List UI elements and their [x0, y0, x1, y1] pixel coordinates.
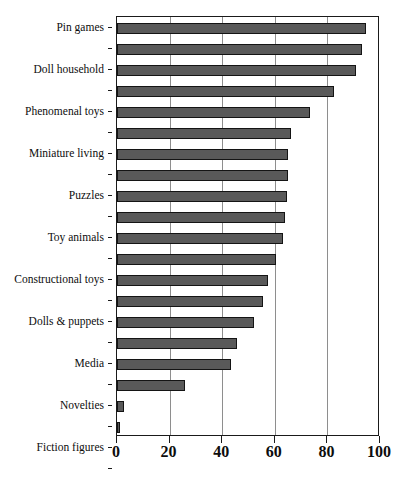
y-axis-label: Constructional toys: [0, 273, 112, 285]
y-axis-label: Toy animals: [0, 231, 112, 243]
y-axis-tick: [108, 258, 112, 259]
x-axis-tick: [169, 436, 170, 443]
y-axis-label: Media: [0, 357, 112, 369]
x-axis-tick: [221, 436, 222, 443]
bar-chart: Pin gamesDoll householdPhenomenal toysMi…: [0, 0, 405, 497]
y-axis-tick: [108, 426, 112, 427]
y-axis-label: Doll household: [0, 63, 112, 75]
bar: [117, 149, 288, 160]
y-axis-label: Novelties: [0, 399, 112, 411]
x-axis-tick-labels: 020406080100: [0, 443, 405, 473]
bar: [117, 317, 254, 328]
y-axis-tick: [108, 342, 112, 343]
bar: [117, 254, 276, 265]
bar: [117, 338, 237, 349]
bar: [117, 191, 287, 202]
x-axis-tick: [116, 436, 117, 443]
y-axis-tick: [108, 300, 112, 301]
bar: [117, 65, 356, 76]
bar: [117, 275, 268, 286]
bar: [117, 359, 231, 370]
bar: [117, 44, 362, 55]
bar-series: [117, 17, 378, 435]
x-axis-tick: [326, 436, 327, 443]
y-axis-tick: [108, 174, 112, 175]
bar: [117, 170, 288, 181]
y-axis-label: Miniature living: [0, 147, 112, 159]
bar: [117, 212, 285, 223]
plot-area: [116, 16, 379, 436]
bar: [117, 128, 291, 139]
bar: [117, 23, 366, 34]
y-axis-labels: Pin gamesDoll householdPhenomenal toysMi…: [0, 16, 112, 436]
y-axis-label: Phenomenal toys: [0, 105, 112, 117]
bar: [117, 86, 334, 97]
x-axis-tick: [274, 436, 275, 443]
y-axis-label: Pin games: [0, 21, 112, 33]
y-axis-tick: [108, 48, 112, 49]
x-axis-tick-label: 80: [318, 443, 334, 461]
bar: [117, 107, 310, 118]
bar: [117, 233, 283, 244]
bar: [117, 422, 120, 433]
bar: [117, 401, 124, 412]
x-axis-tick-label: 20: [161, 443, 177, 461]
x-axis-tick-label: 40: [213, 443, 229, 461]
x-axis-tick: [379, 436, 380, 443]
y-axis-tick: [108, 216, 112, 217]
y-axis-tick: [108, 384, 112, 385]
bar: [117, 296, 263, 307]
y-axis-label: Puzzles: [0, 189, 112, 201]
x-axis-tick-label: 60: [266, 443, 282, 461]
bar: [117, 380, 185, 391]
x-axis-tick-label: 100: [367, 443, 391, 461]
x-axis-tick-label: 0: [112, 443, 120, 461]
y-axis-tick: [108, 90, 112, 91]
y-axis-tick: [108, 132, 112, 133]
y-axis-label: Dolls & puppets: [0, 315, 112, 327]
